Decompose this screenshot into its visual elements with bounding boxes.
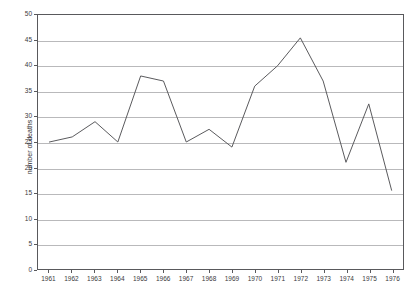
- x-axis-tick-mark: [255, 270, 256, 273]
- x-axis-tick-mark: [324, 270, 325, 273]
- x-axis-tick-mark: [278, 270, 279, 273]
- x-axis-tick-label: 1975: [362, 276, 376, 283]
- x-axis-tick-label: 1969: [225, 276, 239, 283]
- x-axis-tick-label: 1963: [87, 276, 101, 283]
- plot-area: [37, 14, 404, 270]
- x-axis-tick-label: 1972: [294, 276, 308, 283]
- x-axis-tick-label: 1965: [133, 276, 147, 283]
- x-axis-tick-mark: [140, 270, 141, 273]
- x-axis-tick-label: 1971: [271, 276, 285, 283]
- x-axis-tick-mark: [163, 270, 164, 273]
- x-axis-tick-label: 1973: [316, 276, 330, 283]
- line-chart: number of deaths 05101520253035404550 19…: [0, 0, 418, 293]
- x-axis-tick-mark: [94, 270, 95, 273]
- x-axis-tick-mark: [209, 270, 210, 273]
- x-axis-tick-label: 1968: [202, 276, 216, 283]
- x-axis-tick-label: 1974: [339, 276, 353, 283]
- x-axis-tick-label: 1964: [110, 276, 124, 283]
- x-axis-tick-label: 1961: [41, 276, 55, 283]
- x-axis-tick-mark: [186, 270, 187, 273]
- x-axis-tick-mark: [71, 270, 72, 273]
- x-axis-tick-mark: [347, 270, 348, 273]
- x-axis-tick-mark: [370, 270, 371, 273]
- x-axis-tick-mark: [301, 270, 302, 273]
- x-axis-tick-mark: [117, 270, 118, 273]
- x-axis-tick-mark: [393, 270, 394, 273]
- data-series-line: [38, 15, 403, 269]
- x-axis-tick-label: 1966: [156, 276, 170, 283]
- x-axis-tick-label: 1962: [64, 276, 78, 283]
- x-axis-tick-mark: [48, 270, 49, 273]
- x-axis-tick-label: 1970: [248, 276, 262, 283]
- x-axis-tick-mark: [232, 270, 233, 273]
- x-axis-tick-label: 1967: [179, 276, 193, 283]
- x-axis-tick-label: 1976: [385, 276, 399, 283]
